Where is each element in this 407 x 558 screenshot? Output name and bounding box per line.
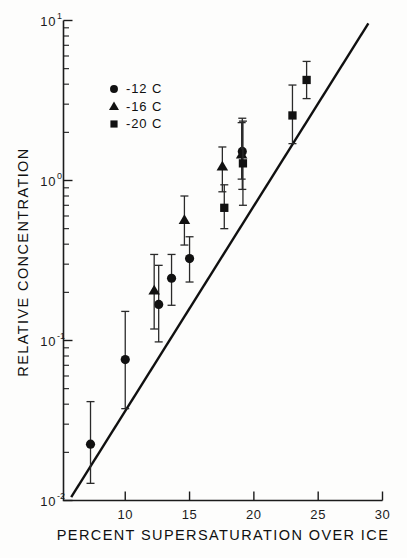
legend-item-label: -20 C bbox=[126, 116, 162, 131]
figure-container: 10-210-1100101 1015202530 -12 C-16 C-20 … bbox=[0, 0, 407, 558]
svg-text:10: 10 bbox=[40, 334, 56, 349]
legend-marker-triangle bbox=[109, 101, 119, 109]
data-point bbox=[239, 121, 247, 205]
legend-item: -16 C bbox=[109, 99, 162, 114]
marker-square bbox=[288, 111, 296, 119]
data-point bbox=[288, 85, 296, 144]
data-point bbox=[167, 254, 176, 305]
marker-circle bbox=[167, 274, 176, 283]
axis-frame bbox=[64, 21, 383, 501]
marker-triangle bbox=[217, 161, 229, 171]
legend-item: -20 C bbox=[110, 116, 162, 131]
data-point bbox=[179, 196, 191, 245]
marker-circle bbox=[121, 355, 130, 364]
marker-triangle bbox=[179, 214, 191, 224]
svg-text:10: 10 bbox=[40, 14, 56, 29]
best-fit-line bbox=[71, 23, 368, 497]
svg-text:1: 1 bbox=[57, 11, 62, 21]
plot-axes bbox=[64, 21, 383, 501]
legend-item-label: -16 C bbox=[126, 99, 162, 114]
y-axis-title: RELATIVE CONCENTRATION bbox=[15, 147, 31, 376]
x-tick-label: 25 bbox=[310, 507, 326, 522]
legend-marker-square bbox=[110, 120, 117, 127]
svg-text:10: 10 bbox=[40, 174, 56, 189]
x-tick-label: 15 bbox=[182, 507, 198, 522]
x-axis-title: PERCENT SUPERSATURATION OVER ICE bbox=[57, 527, 389, 543]
data-point bbox=[154, 265, 163, 342]
y-tick-label: 10-2 bbox=[40, 491, 65, 509]
svg-text:0: 0 bbox=[57, 171, 62, 181]
legend-marker-circle bbox=[110, 85, 118, 93]
marker-circle bbox=[154, 300, 163, 309]
x-tick-label: 20 bbox=[246, 507, 262, 522]
data-point bbox=[302, 61, 310, 98]
svg-text:10: 10 bbox=[40, 494, 56, 509]
y-tick-label: 100 bbox=[40, 171, 62, 189]
x-axis-ticks bbox=[125, 492, 382, 501]
data-point bbox=[185, 237, 194, 282]
marker-square bbox=[220, 204, 228, 212]
marker-square bbox=[302, 76, 310, 84]
y-tick-label: 101 bbox=[40, 11, 62, 29]
fit-line bbox=[71, 23, 368, 497]
x-tick-label: 30 bbox=[375, 507, 391, 522]
y-tick-label: 10-1 bbox=[40, 331, 65, 349]
marker-circle bbox=[86, 440, 95, 449]
y-axis-tick-labels: 10-210-1100101 bbox=[40, 11, 65, 509]
marker-circle bbox=[185, 254, 194, 263]
x-axis-tick-labels: 1015202530 bbox=[117, 507, 390, 522]
scatter-plot-svg: 10-210-1100101 1015202530 -12 C-16 C-20 … bbox=[0, 0, 407, 558]
data-point bbox=[121, 311, 130, 408]
legend-item-label: -12 C bbox=[126, 81, 162, 96]
marker-square bbox=[239, 159, 247, 167]
legend-item: -12 C bbox=[110, 81, 162, 96]
legend: -12 C-16 C-20 C bbox=[109, 81, 162, 131]
x-tick-label: 10 bbox=[117, 507, 133, 522]
svg-text:-2: -2 bbox=[57, 491, 65, 501]
y-axis-ticks bbox=[64, 21, 73, 501]
svg-text:-1: -1 bbox=[57, 331, 65, 341]
